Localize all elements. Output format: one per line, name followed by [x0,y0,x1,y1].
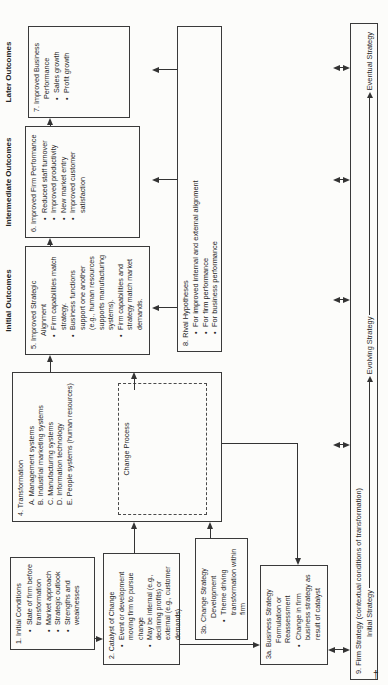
lettered-item: C. Manufacturing systems [46,377,56,505]
box-title: 2. Catalyst of Change [107,558,116,659]
arrowhead-right-icon [47,238,53,245]
box-improved-firm-performance: 6. Improved Firm Performance Reduced sta… [25,126,140,238]
box-title: 6. Improved Firm Performance [29,131,39,232]
arrowhead-down-icon [253,643,260,649]
box-title: 3b. Change Strategy Development [199,543,218,634]
arrowhead-down-icon [343,648,350,654]
bullet-item: For business performance [210,31,219,346]
bullet-item: Profit growth [62,31,72,112]
bullet-item: Change in firm business strategy as resu… [294,570,323,659]
timeline-arrow [367,92,373,314]
change-process-label: Change Process [122,422,131,475]
footnote-dagger: † [373,669,379,680]
arrowhead-up-icon [152,306,159,312]
bullet-item: Firm capabilities match strategy. [49,251,68,349]
arrowhead-up-icon [152,178,159,184]
firm-strategy-title: 9. Firm Strategy (contextual conditions … [351,24,364,679]
arrow-rival-to-alignment [157,307,177,308]
box-change-strategy-development: 3b. Change Strategy Development Theme dr… [195,538,248,640]
arrowhead-up-icon [152,68,159,74]
box-rival-hypotheses: 8. Rival Hypotheses For improved interna… [177,26,222,352]
box-business-strategy-formulation: 3a. Business Strategy Formulation or Rea… [260,565,328,665]
stage-evolving-strategy: Evolving Strategy [365,317,375,375]
stage-initial-strategy: Initial Strategy [365,590,375,637]
box-title: 1. Initial Conditions [14,562,24,644]
arrow-rival-to-businessperformance [157,69,177,70]
arrowhead-left-icon [295,558,301,565]
bullet-item: Strategic outlook [53,562,63,644]
bullet-item: State of firm before transformation [25,562,44,644]
bullet-item: Improved customer satisfaction [68,131,87,232]
bullet-item: Reduced staff turnover [40,131,50,232]
arrow-catalyst-to-businessstrategy [180,644,255,645]
arrowhead-down-icon [343,66,350,72]
firm-strategy-strip: 9. Firm Strategy (contextual conditions … [350,23,378,680]
arrow-transformation-to-businessstrategy-h [297,443,298,559]
arrowhead-down-icon [343,178,350,184]
box-title: 3a. Business Strategy Formulation or Rea… [264,570,293,659]
arrow-catalyst-to-transformation [134,528,135,553]
bullet-item: For improved internal and external align… [191,31,200,346]
timeline-arrow [367,376,373,588]
bullet-item: Improved productivity [49,131,59,232]
figure-page: Initial Outcomes Intermediate Outcomes L… [0,0,388,685]
lettered-item: A. Management systems [27,377,37,505]
heading-later-outcomes: Later Outcomes [4,26,13,118]
bullet-item: Market approach [44,562,54,644]
arrow-changestrategy-to-transformation [210,528,211,538]
arrow-changeprocess-out [134,378,135,390]
box-catalyst-of-change: 2. Catalyst of Change Event or developme… [103,553,180,665]
arrow-right-icon [367,376,373,382]
box-title: 5. Improved Strategic Alignment [29,251,48,349]
heading-intermediate-outcomes: Intermediate Outcomes [4,126,13,238]
bullet-item: May be internal (e.g., declining profits… [145,558,182,659]
arrow-transformation-to-businessstrategy-v [222,443,298,444]
diagram-canvas: Initial Outcomes Intermediate Outcomes L… [0,0,388,685]
lettered-item: E. People systems (human resources) [65,377,75,505]
bullet-item: Theme driving transformation within firm [219,543,248,634]
bullet-item: For firm performance [201,31,210,346]
arrow-right-icon [367,92,373,98]
box-title: 4. Transformation [16,377,26,516]
box-title: 8. Rival Hypotheses [181,31,190,346]
bullet-item: Firm capabilities and strategy match mar… [116,251,145,349]
arrowhead-down-icon [96,636,103,642]
box-improved-business-performance: 7. Improved Business Performance Sales g… [28,26,130,118]
stage-eventual-strategy: Eventual Strategy [365,32,375,90]
box-title: 7. Improved Business Performance [32,31,51,112]
arrowhead-right-icon [47,118,53,125]
arrowhead-right-icon [207,522,213,529]
change-process-dashed-box: Change Process [118,383,207,515]
lettered-item: D. Information technology [55,377,65,505]
bullet-item: Business functions support one another (… [68,251,116,349]
bullet-item: Event or development moving firm to purs… [117,558,145,659]
arrowhead-right-icon [131,372,137,379]
box-improved-strategic-alignment: 5. Improved Strategic Alignment Firm cap… [25,246,150,355]
arrowhead-right-icon [47,355,53,362]
arrowhead-down-icon [343,298,350,304]
bullet-item: Sales growth [52,31,62,112]
strategy-timeline: Initial Strategy Evolving Strategy Event… [364,24,375,679]
box-initial-conditions: 1. Initial Conditions State of firm befo… [10,557,95,650]
arrow-transformation-to-alignment [50,361,51,372]
bullet-item: New market entry [59,131,69,232]
arrowhead-right-icon [131,522,137,529]
heading-initial-outcomes: Initial Outcomes [4,246,13,355]
arrow-rival-to-firmperformance [157,179,177,180]
arrowhead-down-icon [343,443,350,449]
bullet-item: Strengths and weaknesses [63,562,82,644]
lettered-item: B. Industrial marketing systems [36,377,46,505]
